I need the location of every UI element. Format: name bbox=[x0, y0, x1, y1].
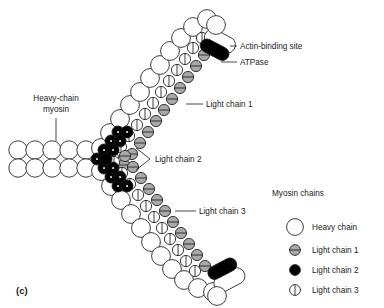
legend-label-light-chain-2: Light chain 2 bbox=[312, 266, 359, 275]
legend-item-light-chain-2: Light chain 2 bbox=[290, 265, 359, 276]
legend-label-heavy-chain: Heavy chain bbox=[312, 223, 358, 232]
callout-light-chain-1: Light chain 1 bbox=[186, 100, 253, 109]
callout-atpase: ATPase bbox=[221, 58, 269, 67]
callout-actin-binding-site: Actin-binding site bbox=[230, 42, 303, 51]
atpase-label: ATPase bbox=[240, 58, 269, 67]
callout-light-chain-2: Light chain 2 bbox=[136, 148, 202, 170]
legend-item-light-chain-1: Light chain 1 bbox=[290, 245, 359, 256]
legend: Myosin chains Heavy chain Light chain 1 … bbox=[272, 189, 359, 295]
light-chain-2-swatch-icon bbox=[290, 265, 301, 276]
light-chain-1-label: Light chain 1 bbox=[206, 100, 253, 109]
lower-head-group bbox=[208, 258, 245, 305]
tail-heavy-chain-group bbox=[9, 141, 95, 177]
legend-item-light-chain-3: Light chain 3 bbox=[290, 285, 359, 296]
legend-title: Myosin chains bbox=[272, 189, 324, 198]
heavy-chain-swatch-icon bbox=[287, 219, 304, 236]
light-chain-3-label: Light chain 3 bbox=[199, 207, 246, 216]
actin-binding-site-label: Actin-binding site bbox=[240, 42, 303, 51]
light-chain-2-label: Light chain 2 bbox=[155, 155, 202, 164]
panel-caption: (c) bbox=[16, 285, 28, 296]
legend-label-light-chain-1: Light chain 1 bbox=[312, 246, 359, 255]
heavy-chain-myosin-label-line1: Heavy-chain bbox=[33, 94, 79, 103]
callout-light-chain-3: Light chain 3 bbox=[175, 207, 246, 216]
legend-label-light-chain-3: Light chain 3 bbox=[312, 286, 359, 295]
heavy-chain-myosin-label-line2: myosin bbox=[43, 105, 69, 114]
myosin-diagram-svg: Actin-binding site ATPase Light chain 1 … bbox=[0, 0, 384, 308]
myosin-molecule-figure: Actin-binding site ATPase Light chain 1 … bbox=[0, 0, 384, 308]
callout-heavy-chain-myosin: Heavy-chain myosin bbox=[33, 94, 79, 141]
legend-item-heavy-chain: Heavy chain bbox=[287, 219, 358, 236]
